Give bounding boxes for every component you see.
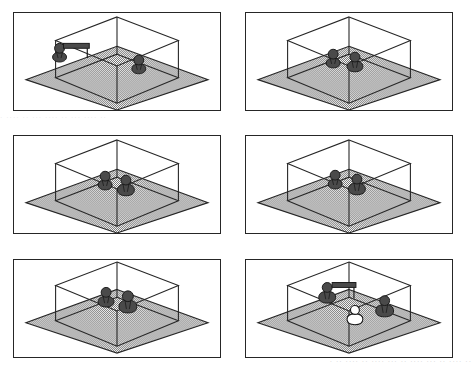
panel-cell-2 xyxy=(238,0,476,123)
scene-2 xyxy=(246,13,452,110)
panel-2 xyxy=(245,12,453,111)
panel-6 xyxy=(245,259,453,358)
panel-1 xyxy=(13,12,221,111)
horizontal-connector-bar xyxy=(64,43,90,48)
pawn-dark-left xyxy=(98,287,114,307)
panel-cell-1 xyxy=(0,0,238,123)
panel-5 xyxy=(13,259,221,358)
horizontal-connector-bar xyxy=(332,283,356,288)
panel-3 xyxy=(13,135,221,234)
scene-4 xyxy=(246,136,452,233)
scene-5 xyxy=(14,260,220,357)
scene-6 xyxy=(246,260,452,357)
panel-cell-5 xyxy=(0,247,238,371)
panel-grid xyxy=(0,0,476,371)
panel-cell-3 xyxy=(0,123,238,247)
scene-3 xyxy=(14,136,220,233)
scene-1 xyxy=(14,13,220,110)
panel-cell-6 xyxy=(238,247,476,371)
panel-4 xyxy=(245,135,453,234)
panel-cell-4 xyxy=(238,123,476,247)
